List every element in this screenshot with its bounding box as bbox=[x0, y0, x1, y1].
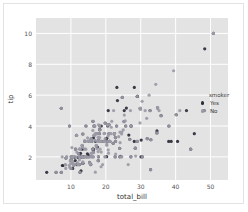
y-tick-label: 10 bbox=[14, 30, 32, 37]
legend-marker-yes-icon bbox=[196, 101, 209, 104]
x-tick-label: 40 bbox=[172, 183, 180, 190]
legend-label-yes: Yes bbox=[210, 100, 219, 106]
x-tick-label: 20 bbox=[102, 183, 110, 190]
scatter-plot-figure: 246810 1020304050 tip total_bill smoker … bbox=[0, 0, 248, 212]
legend-marker-no-icon bbox=[196, 109, 209, 112]
x-tick-label: 10 bbox=[67, 183, 75, 190]
y-tick-label: 8 bbox=[14, 61, 32, 68]
series-no bbox=[54, 32, 215, 174]
y-tick-label: 6 bbox=[14, 92, 32, 99]
y-tick-label: 4 bbox=[14, 123, 32, 130]
x-tick-label: 50 bbox=[207, 183, 215, 190]
legend: smoker Yes No bbox=[196, 92, 246, 115]
x-tick-label: 30 bbox=[137, 183, 145, 190]
y-axis-title: tip bbox=[7, 94, 15, 103]
legend-item-yes[interactable]: Yes bbox=[196, 99, 246, 107]
x-axis-title: total_bill bbox=[36, 193, 228, 201]
legend-label-no: No bbox=[210, 108, 217, 114]
y-tick-label: 2 bbox=[14, 153, 32, 160]
series-yes bbox=[45, 32, 215, 174]
legend-item-no[interactable]: No bbox=[196, 107, 246, 115]
legend-title: smoker bbox=[209, 92, 246, 98]
